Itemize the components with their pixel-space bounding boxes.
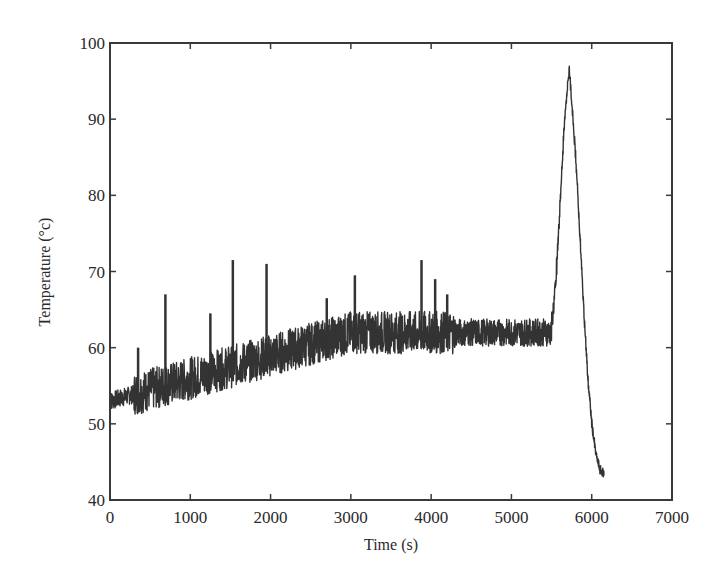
- plot-data-series: [110, 66, 604, 476]
- x-axis-title: Time (s): [364, 536, 418, 554]
- temperature-line: [110, 66, 604, 476]
- x-tick-label: 4000: [414, 508, 448, 527]
- x-tick-label: 5000: [494, 508, 528, 527]
- x-tick-label: 3000: [334, 508, 368, 527]
- y-tick-label: 100: [80, 34, 106, 53]
- y-tick-labels: 405060708090100: [80, 34, 106, 510]
- y-tick-label: 50: [88, 415, 105, 434]
- x-tick-label: 1000: [173, 508, 207, 527]
- y-tick-label: 80: [88, 186, 105, 205]
- x-tick-label: 2000: [254, 508, 288, 527]
- x-tick-labels: 01000200030004000500060007000: [106, 508, 689, 527]
- axis-ticks: [110, 43, 672, 500]
- y-tick-label: 90: [88, 110, 105, 129]
- x-tick-label: 6000: [575, 508, 609, 527]
- y-tick-label: 60: [88, 339, 105, 358]
- chart: 01000200030004000500060007000 4050607080…: [0, 0, 728, 585]
- plot-frame: [110, 43, 672, 500]
- y-tick-label: 40: [88, 491, 105, 510]
- x-tick-label: 7000: [655, 508, 689, 527]
- y-tick-label: 70: [88, 263, 105, 282]
- y-axis-title: Temperature (°c): [36, 218, 54, 327]
- x-tick-label: 0: [106, 508, 115, 527]
